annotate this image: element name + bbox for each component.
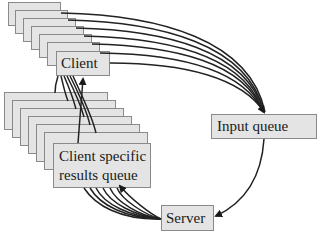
client-to-input-queue-arrows [61,13,265,112]
client-to-results-lines [55,76,96,143]
connector-arrows [0,0,322,237]
server-to-results-arrows [84,186,161,219]
input-queue-to-server-arrow [216,139,264,216]
client-server-queue-diagram: Client Client specific results queue Inp… [0,0,322,237]
